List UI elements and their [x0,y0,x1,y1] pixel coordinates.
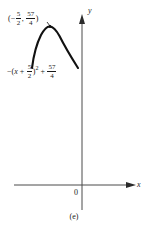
parabola-curve [32,26,78,68]
function-equation-label: −(x + 52)2 + 574 [7,64,57,80]
y-axis-arrowhead [79,14,85,24]
equation-exponent: 2 [35,65,38,71]
vertex-x-fraction: 52 [16,11,22,27]
equation-constant-fraction: 574 [47,64,56,80]
vertex-open-paren: (− [8,14,15,23]
parabola-plot [0,0,148,233]
x-axis-arrowhead [126,182,136,188]
vertex-x-denominator: 2 [16,19,22,26]
equation-outer-plus: + [40,67,45,76]
vertex-comma: , [22,14,24,23]
vertex-label-leader [47,22,50,26]
x-axis-label: x [137,180,141,189]
vertex-close-paren: ) [36,14,39,23]
origin-label: 0 [74,188,78,197]
equation-shift-fraction: 52 [27,64,33,80]
equation-constant-denominator: 4 [47,72,56,79]
vertex-y-fraction: 574 [26,11,35,27]
equation-inner-plus: + [20,67,25,76]
vertex-y-denominator: 4 [26,19,35,26]
y-axis-label: y [88,6,92,15]
equation-variable: x [14,67,18,76]
figure-container: (−52, 574) −(x + 52)2 + 574 y x 0 (e) [0,0,148,233]
equation-shift-denominator: 2 [27,72,33,79]
figure-caption: (e) [0,212,148,221]
vertex-coordinate-label: (−52, 574) [8,11,38,27]
